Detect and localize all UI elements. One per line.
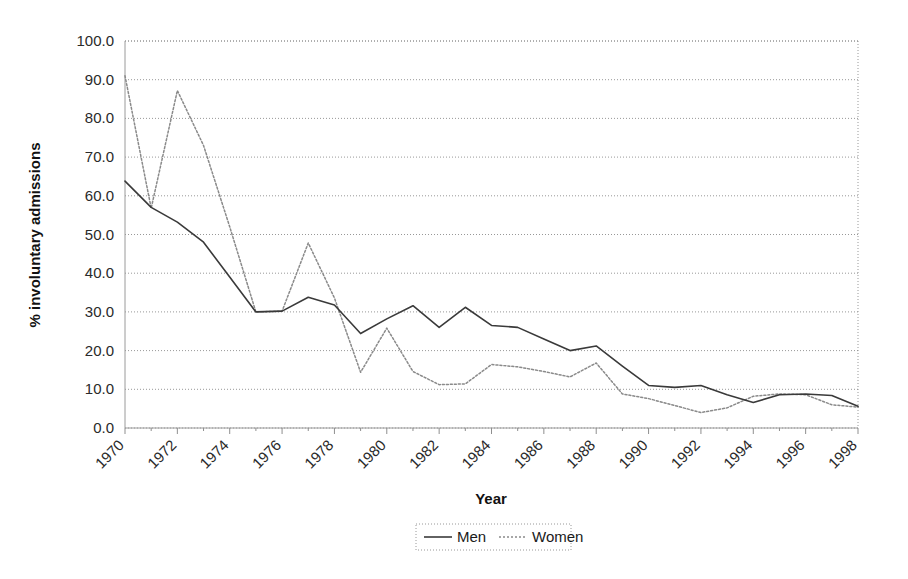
y-tick-label: 80.0 xyxy=(85,109,114,126)
gridlines-layer xyxy=(125,41,858,428)
legend-label-men[interactable]: Men xyxy=(457,528,486,545)
x-tick-label: 1992 xyxy=(667,436,703,472)
y-tick-label: 70.0 xyxy=(85,148,114,165)
y-tick-label: 60.0 xyxy=(85,187,114,204)
x-tick-label: 1986 xyxy=(510,436,546,472)
x-tick-label: 1996 xyxy=(772,436,808,472)
x-tick-label: 1982 xyxy=(406,436,442,472)
x-tickmarks-layer xyxy=(125,428,858,434)
x-tick-label: 1976 xyxy=(249,436,285,472)
y-tick-label: 0.0 xyxy=(93,419,114,436)
y-tick-label: 10.0 xyxy=(85,380,114,397)
x-tick-labels: 1970197219741976197819801982198419861988… xyxy=(92,436,861,472)
x-tick-label: 1970 xyxy=(92,436,128,472)
legend-label-women[interactable]: Women xyxy=(532,528,583,545)
x-tick-label: 1998 xyxy=(825,436,861,472)
y-tick-label: 40.0 xyxy=(85,264,114,281)
series-layer xyxy=(125,76,858,413)
y-tick-label: 30.0 xyxy=(85,303,114,320)
x-tick-label: 1994 xyxy=(720,436,756,472)
chart-container: 0.010.020.030.040.050.060.070.080.090.01… xyxy=(0,0,908,579)
x-tick-label: 1978 xyxy=(301,436,337,472)
series-line-men xyxy=(125,181,858,406)
x-tick-label: 1974 xyxy=(196,436,232,472)
legend: Men Women xyxy=(416,524,583,550)
x-tick-label: 1988 xyxy=(563,436,599,472)
y-tick-labels: 0.010.020.030.040.050.060.070.080.090.01… xyxy=(76,32,114,436)
y-tick-label: 50.0 xyxy=(85,226,114,243)
line-chart: 0.010.020.030.040.050.060.070.080.090.01… xyxy=(0,0,908,579)
y-tick-label: 100.0 xyxy=(76,32,114,49)
x-axis-title: Year xyxy=(475,490,507,507)
series-line-women xyxy=(125,76,858,413)
x-tick-label: 1980 xyxy=(353,436,389,472)
y-tick-label: 20.0 xyxy=(85,342,114,359)
x-tick-label: 1984 xyxy=(458,436,494,472)
y-axis-title: % involuntary admissions xyxy=(26,142,43,327)
x-tick-label: 1972 xyxy=(144,436,180,472)
y-tick-label: 90.0 xyxy=(85,71,114,88)
x-tick-label: 1990 xyxy=(615,436,651,472)
